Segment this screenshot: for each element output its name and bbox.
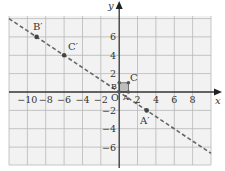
label-origin: O bbox=[111, 92, 119, 103]
label-b-prime: B′ bbox=[33, 21, 43, 32]
x-axis-label: x bbox=[215, 95, 221, 106]
x-tick: −2 bbox=[94, 94, 108, 105]
x-tick: −10 bbox=[17, 94, 37, 105]
y-tick: 2 bbox=[110, 68, 116, 79]
x-tick: −6 bbox=[57, 94, 71, 105]
y-tick: −6 bbox=[102, 142, 116, 153]
x-tick: −8 bbox=[39, 94, 53, 105]
unit-square bbox=[119, 83, 128, 92]
point-b bbox=[117, 81, 121, 85]
y-tick: −4 bbox=[102, 123, 116, 134]
x-tick: −4 bbox=[75, 94, 89, 105]
y-tick: −2 bbox=[102, 105, 116, 116]
y-axis-arrow-icon bbox=[116, 1, 123, 9]
label-c-prime: C′ bbox=[68, 41, 79, 52]
coordinate-diagram: B′ C′ A′ C B A O x y −10 −8 −6 −4 −2 2 4… bbox=[0, 0, 225, 171]
x-tick: 8 bbox=[190, 94, 196, 105]
x-tick: 2 bbox=[134, 94, 140, 105]
label-a: A bbox=[122, 93, 129, 102]
point-a-prime bbox=[144, 108, 149, 113]
x-tick: 4 bbox=[153, 94, 159, 105]
point-c-prime bbox=[62, 53, 67, 58]
label-a-prime: A′ bbox=[139, 115, 150, 126]
x-tick: 6 bbox=[171, 94, 177, 105]
y-tick: 4 bbox=[110, 50, 116, 61]
y-axis-label: y bbox=[107, 0, 114, 11]
y-tick: 6 bbox=[110, 31, 116, 42]
label-b: B bbox=[111, 82, 117, 91]
point-b-prime bbox=[34, 35, 39, 40]
label-c: C bbox=[130, 72, 138, 83]
